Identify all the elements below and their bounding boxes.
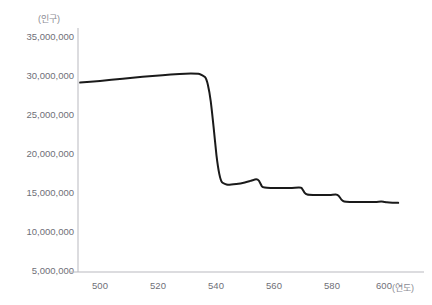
chart-plot-area <box>0 0 432 305</box>
population-series-line <box>80 74 398 203</box>
population-line-chart: 고구려 인구 변화 추이 (인구) 35,000,000 30,000,000 … <box>0 0 432 305</box>
